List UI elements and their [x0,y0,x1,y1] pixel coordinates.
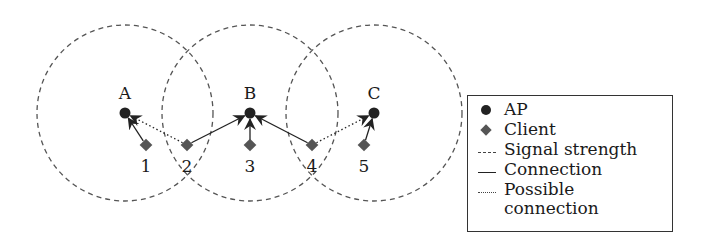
legend-item-possible-connection: Possible connection [476,180,672,220]
client-label: 3 [245,156,256,176]
ap-node-c-icon [369,108,380,119]
connection-4-b [255,116,307,143]
client-label: 5 [359,156,370,176]
legend: AP Client Signal strength Connection Pos… [467,95,673,232]
legend-item-connection: Connection [476,160,672,180]
client-label: 4 [307,156,318,176]
legend-label: Possible connection [504,180,654,218]
legend-item-ap: AP [476,100,672,120]
connection-2-b [191,116,244,143]
solid-line-icon [476,160,504,180]
possible-connection-2-a [130,116,182,143]
legend-label: AP [504,100,528,119]
client-label: 1 [141,156,152,176]
ap-node-b-icon [245,108,256,119]
legend-item-signal-strength: Signal strength [476,140,672,160]
connection-links [128,116,372,143]
dotted-line-icon [476,180,504,200]
client-node-3-icon [244,139,257,152]
ap-label: A [118,83,132,103]
client-node-2-icon [181,139,194,152]
client-node-1-icon [140,139,153,152]
ap-label: C [367,83,380,103]
connection-1-a [128,118,143,141]
legend-item-client: Client [476,120,672,140]
ap-label: B [244,83,257,103]
ap-dot-icon [476,100,504,120]
access-points: ABC [118,83,381,119]
connection-5-c [365,119,372,141]
client-node-5-icon [358,139,371,152]
client-diamond-icon [476,120,504,140]
legend-label: Client [504,120,556,139]
possible-connection-4-c [316,116,368,143]
client-label: 2 [182,156,193,176]
ap-node-a-icon [120,108,131,119]
client-node-4-icon [306,139,319,152]
legend-label: Signal strength [504,140,637,159]
dashed-line-icon [476,140,504,160]
legend-label: Connection [504,160,602,179]
